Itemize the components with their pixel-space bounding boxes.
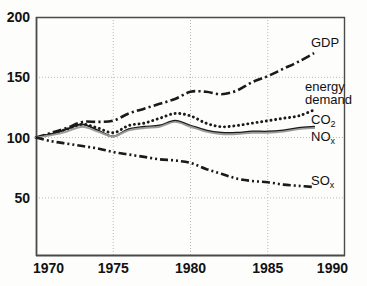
y-tick-label-200: 200 [7,9,31,25]
series-label-energy-demand-line2: demand [305,92,352,107]
y-tick-label-150: 150 [7,69,31,85]
gridlines [36,17,345,256]
x-tick-label-1975: 1975 [98,260,129,276]
x-tick-label-1970: 1970 [33,260,64,276]
x-tick-label-1990: 1990 [317,260,348,276]
x-tick-label-1980: 1980 [175,260,206,276]
series-line-sox [36,138,314,187]
x-tick-label-1985: 1985 [252,260,283,276]
y-tick-label-50: 50 [14,190,30,206]
series-layer [36,53,314,187]
chart-container: 5010015020019701975198019851990 GDPenerg… [0,0,367,286]
series-label-gdp: GDP [311,35,339,50]
line-chart: 5010015020019701975198019851990 GDPenerg… [0,0,367,286]
y-tick-label-100: 100 [7,130,31,146]
axes [36,17,345,256]
series-label-nox: NOx [311,129,336,146]
series-label-sox: SOx [311,173,335,190]
series-label-co2: CO2 [311,112,336,129]
